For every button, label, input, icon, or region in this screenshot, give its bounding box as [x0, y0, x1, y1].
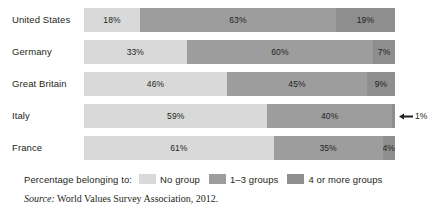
bar-value-label: 4%	[383, 143, 395, 153]
legend-swatch-icon	[209, 174, 226, 184]
bar-great-britain: 46% 45% 9%	[84, 72, 395, 96]
bar-value-label: 45%	[288, 79, 305, 89]
bar-value-label: 63%	[229, 15, 246, 25]
legend-swatch-icon	[139, 174, 156, 184]
bar-segment-no-group: 33%	[84, 40, 187, 64]
legend-swatch-icon	[287, 174, 304, 184]
bar-segment-4-or-more-groups: 9%	[367, 72, 395, 96]
table-row: France 61% 35% 4%	[0, 136, 429, 160]
legend-title: Percentage belonging to:	[24, 174, 132, 185]
bar-segment-no-group: 59%	[84, 104, 267, 128]
row-label-great-britain: Great Britain	[12, 72, 80, 96]
source-note: Source: World Values Survey Association,…	[24, 193, 218, 204]
source-label: Source:	[24, 193, 55, 204]
bar-value-label: 40%	[321, 111, 338, 121]
bar-value-label: 7%	[378, 47, 391, 57]
chart-plot-area: United States 18% 63% 19% Germany 33%	[0, 8, 429, 168]
bar-segment-4-or-more-groups: 7%	[373, 40, 395, 64]
bar-segment-4-or-more-groups: 4%	[383, 136, 395, 160]
table-row: Germany 33% 60% 7%	[0, 40, 429, 64]
bar-value-label: 9%	[375, 79, 388, 89]
bar-value-label: 35%	[319, 143, 336, 153]
bar-segment-1-3-groups: 60%	[187, 40, 374, 64]
source-text: World Values Survey Association, 2012.	[55, 193, 219, 204]
row-label-united-states: United States	[12, 8, 80, 32]
callout-annotation-italy: 1%	[399, 104, 427, 128]
stacked-bar-chart-figure: United States 18% 63% 19% Germany 33%	[0, 0, 429, 215]
bar-value-label: 46%	[147, 79, 164, 89]
row-label-germany: Germany	[12, 40, 80, 64]
bar-segment-4-or-more-groups	[392, 104, 395, 128]
bar-germany: 33% 60% 7%	[84, 40, 395, 64]
table-row: Italy 59% 40% 1%	[0, 104, 429, 128]
bar-segment-1-3-groups: 35%	[274, 136, 383, 160]
table-row: Great Britain 46% 45% 9%	[0, 72, 429, 96]
bar-segment-no-group: 46%	[84, 72, 227, 96]
bar-segment-no-group: 61%	[84, 136, 274, 160]
legend-item-no-group: No group	[139, 174, 200, 185]
bar-value-label: 19%	[357, 15, 374, 25]
row-label-italy: Italy	[12, 104, 80, 128]
bar-value-label: 59%	[167, 111, 184, 121]
bar-value-label: 18%	[103, 15, 120, 25]
table-row: United States 18% 63% 19%	[0, 8, 429, 32]
annotation-label: 1%	[415, 111, 427, 121]
bar-segment-1-3-groups: 45%	[227, 72, 367, 96]
legend-item-label: 4 or more groups	[308, 174, 382, 185]
bar-value-label: 33%	[127, 47, 144, 57]
legend-item-label: 1–3 groups	[230, 174, 279, 185]
bar-value-label: 61%	[170, 143, 187, 153]
chart-legend: Percentage belonging to: No group 1–3 gr…	[24, 172, 391, 186]
bar-segment-4-or-more-groups: 19%	[336, 8, 395, 32]
left-arrow-icon	[399, 113, 413, 120]
legend-item-4-or-more-groups: 4 or more groups	[287, 174, 382, 185]
bar-segment-1-3-groups: 40%	[267, 104, 391, 128]
bar-segment-no-group: 18%	[84, 8, 140, 32]
legend-item-label: No group	[160, 174, 200, 185]
bar-france: 61% 35% 4%	[84, 136, 395, 160]
legend-item-1-3-groups: 1–3 groups	[209, 174, 279, 185]
row-label-france: France	[12, 136, 80, 160]
bar-value-label: 60%	[271, 47, 288, 57]
bar-italy: 59% 40%	[84, 104, 395, 128]
bar-united-states: 18% 63% 19%	[84, 8, 395, 32]
bar-segment-1-3-groups: 63%	[140, 8, 336, 32]
